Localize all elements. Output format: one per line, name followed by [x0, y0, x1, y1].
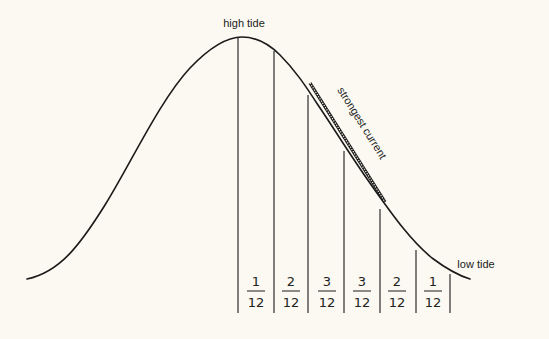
- svg-text:2: 2: [393, 274, 401, 289]
- fraction-2: 2 12: [282, 274, 300, 310]
- fraction-3: 3 12: [318, 274, 336, 310]
- time-dividers: [238, 37, 450, 313]
- svg-text:12: 12: [425, 295, 442, 310]
- svg-text:3: 3: [323, 274, 331, 289]
- svg-text:12: 12: [319, 295, 336, 310]
- fraction-4: 3 12: [353, 274, 371, 310]
- svg-text:3: 3: [358, 274, 366, 289]
- svg-text:1: 1: [429, 274, 437, 289]
- fraction-6: 1 12: [424, 274, 442, 310]
- svg-text:12: 12: [283, 295, 300, 310]
- tide-diagram: high tide low tide strongest current 1 1…: [0, 0, 549, 339]
- svg-text:2: 2: [287, 274, 295, 289]
- high-tide-label: high tide: [223, 17, 265, 29]
- low-tide-label: low tide: [457, 258, 494, 270]
- strongest-current-label: strongest current: [335, 85, 389, 161]
- tide-curve: [27, 37, 470, 279]
- fraction-1: 1 12: [247, 274, 265, 310]
- fraction-5: 2 12: [388, 274, 406, 310]
- tide-curve-figure: high tide low tide strongest current 1 1…: [0, 0, 549, 339]
- svg-text:12: 12: [354, 295, 371, 310]
- svg-text:12: 12: [248, 295, 265, 310]
- svg-text:1: 1: [252, 274, 260, 289]
- svg-text:12: 12: [389, 295, 406, 310]
